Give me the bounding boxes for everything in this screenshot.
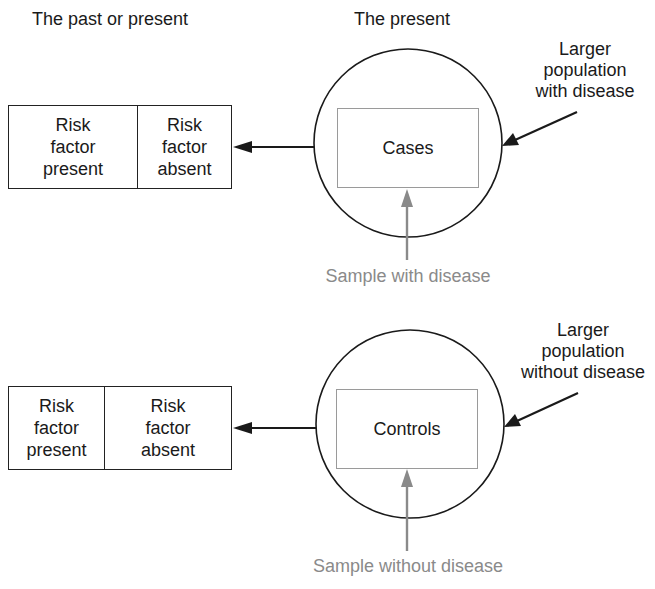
cell-line: factor: [157, 136, 211, 158]
sample-label-controls: Sample without disease: [296, 556, 520, 576]
arrow-sample-cases: [401, 189, 413, 260]
population-label-controls: Larger population without disease: [508, 320, 655, 383]
cell-line: factor: [141, 417, 195, 439]
label-line: Larger: [520, 39, 650, 60]
cell-line: absent: [141, 439, 195, 461]
arrow-population-cases: [502, 112, 577, 146]
cell-risk-factor-present: Risk factor present: [9, 387, 104, 469]
heading-present: The present: [354, 9, 450, 29]
arrow-sample-controls: [401, 469, 413, 551]
population-label-cases: Larger population with disease: [520, 39, 650, 102]
cell-line: Risk: [26, 395, 86, 417]
label-line: population: [508, 341, 655, 362]
arrow-population-controls: [504, 393, 578, 427]
cell-line: absent: [157, 158, 211, 180]
cell-risk-factor-present: Risk factor present: [9, 106, 137, 188]
risk-factor-table-cases: Risk factor present Risk factor absent: [8, 105, 232, 189]
cell-line: factor: [43, 136, 103, 158]
controls-box: Controls: [336, 389, 478, 469]
cell-risk-factor-absent: Risk factor absent: [104, 387, 231, 469]
heading-past-or-present: The past or present: [32, 9, 188, 29]
sample-label-cases: Sample with disease: [310, 266, 506, 286]
cell-line: factor: [26, 417, 86, 439]
cell-line: Risk: [141, 395, 195, 417]
cell-risk-factor-absent: Risk factor absent: [137, 106, 231, 188]
arrow-to-table-cases: [233, 141, 314, 153]
cell-line: Risk: [43, 114, 103, 136]
label-line: population: [520, 60, 650, 81]
cell-line: Risk: [157, 114, 211, 136]
cell-line: present: [43, 158, 103, 180]
label-line: with disease: [520, 81, 650, 102]
risk-factor-table-controls: Risk factor present Risk factor absent: [8, 386, 232, 470]
label-line: without disease: [508, 362, 655, 383]
cases-label: Cases: [382, 138, 433, 159]
label-line: Larger: [508, 320, 655, 341]
cell-line: present: [26, 439, 86, 461]
arrow-to-table-controls: [233, 422, 316, 434]
cases-box: Cases: [337, 108, 479, 188]
controls-label: Controls: [373, 419, 440, 440]
